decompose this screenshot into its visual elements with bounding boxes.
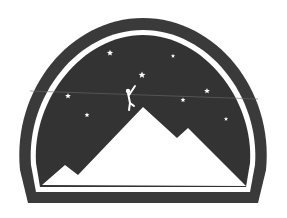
mountain-star-emblem xyxy=(0,0,287,218)
